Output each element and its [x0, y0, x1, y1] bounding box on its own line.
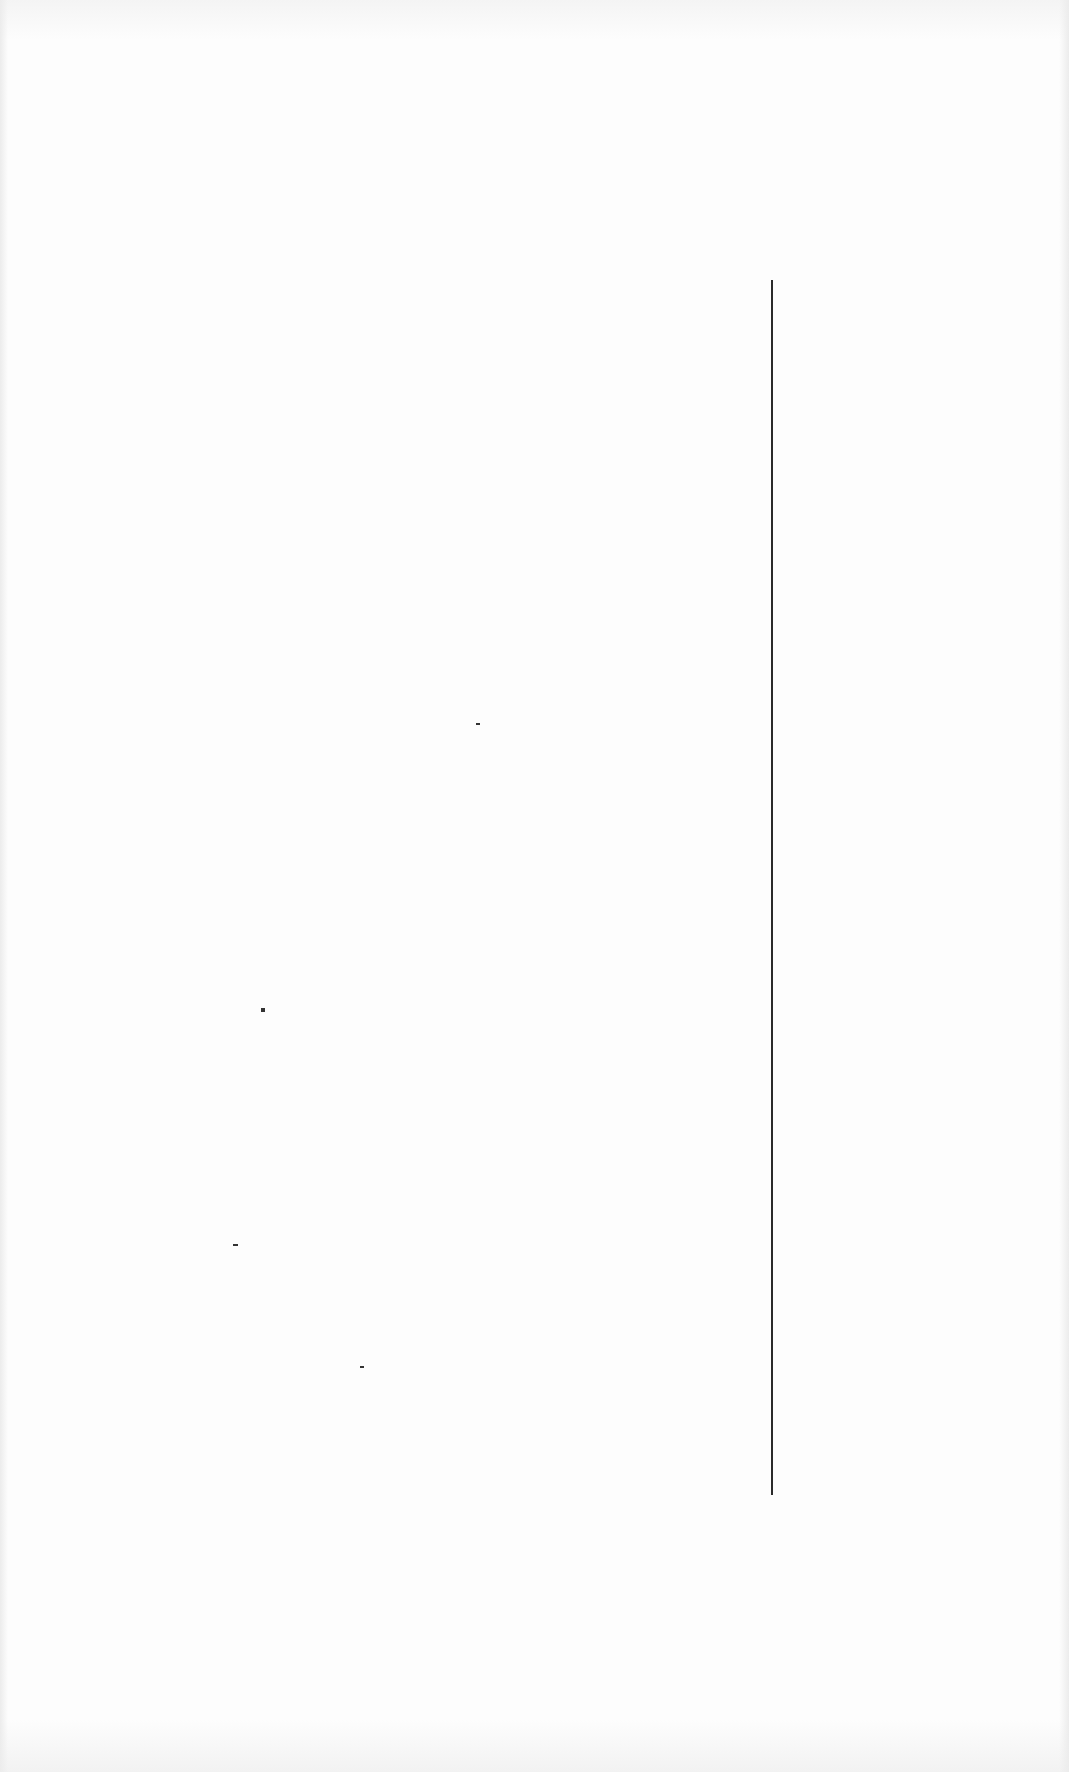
speck [476, 723, 480, 725]
speck [233, 1244, 238, 1246]
scanned-page [0, 0, 1069, 1772]
vertical-rule [771, 280, 773, 1495]
speck [261, 1008, 265, 1012]
page-edge-right [1059, 0, 1069, 1772]
page-edge-left [0, 0, 8, 1772]
speck [360, 1366, 364, 1368]
